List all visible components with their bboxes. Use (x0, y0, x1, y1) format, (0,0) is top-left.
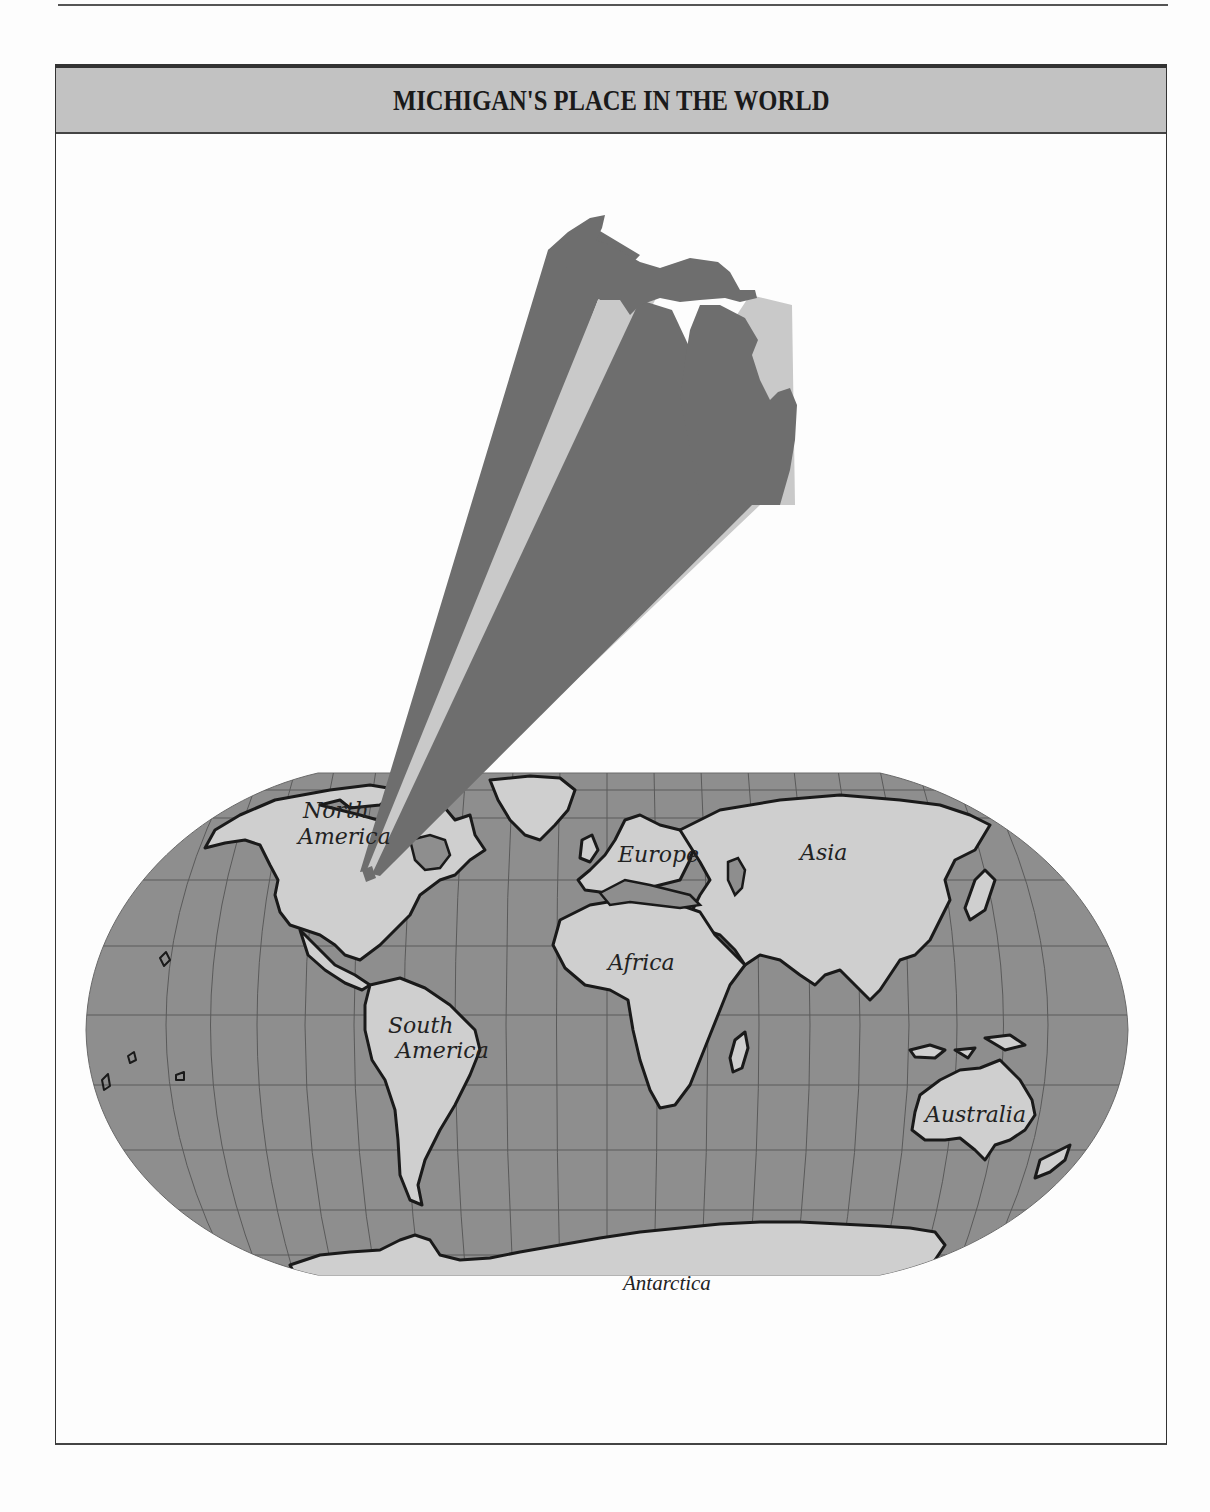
label-australia: Australia (923, 1102, 1026, 1127)
label-north-america-2: America (296, 824, 391, 849)
label-asia: Asia (798, 840, 847, 865)
label-africa: Africa (606, 950, 675, 975)
label-south-america-1: South (388, 1013, 454, 1038)
label-europe: Europe (617, 842, 699, 867)
label-south-america-2: America (394, 1038, 489, 1063)
world-map: North America South America Europe Asia … (0, 0, 1210, 1512)
label-antarctica: Antarctica (621, 1271, 711, 1295)
label-north-america-1: North (302, 798, 369, 823)
